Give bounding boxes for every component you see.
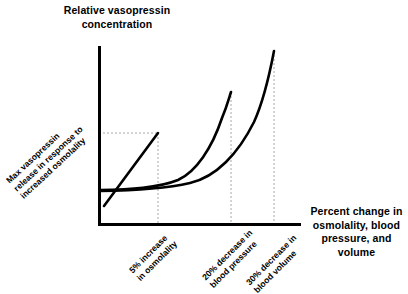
curve-blood-volume (100, 51, 274, 191)
chart-figure: Relative vasopressin concentration Perce… (0, 0, 408, 294)
curve-osmolality (104, 133, 158, 206)
